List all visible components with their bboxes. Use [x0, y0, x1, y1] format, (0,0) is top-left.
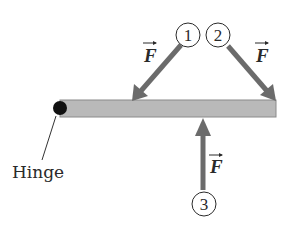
force-arrow-3 [195, 118, 211, 190]
svg-text:3: 3 [200, 195, 209, 214]
svg-text:F: F [143, 45, 157, 66]
svg-text:F: F [255, 45, 269, 66]
hinge-label: Hinge [12, 162, 64, 182]
force-number-3: 3 [192, 192, 216, 216]
svg-text:1: 1 [184, 26, 193, 45]
hinge-pointer-line [42, 116, 56, 160]
svg-text:2: 2 [214, 26, 223, 45]
force-label-3: F [209, 153, 223, 177]
svg-text:F: F [209, 156, 223, 177]
force-label-2: F [255, 41, 269, 66]
force-number-2: 2 [206, 23, 230, 47]
force-number-1: 1 [176, 23, 200, 47]
diagram-canvas: Hinge 1 2 3 F F F [0, 0, 296, 239]
force-label-1: F [143, 41, 157, 66]
rod [60, 100, 276, 117]
force-arrow-2 [228, 46, 276, 101]
hinge-icon [53, 101, 67, 115]
